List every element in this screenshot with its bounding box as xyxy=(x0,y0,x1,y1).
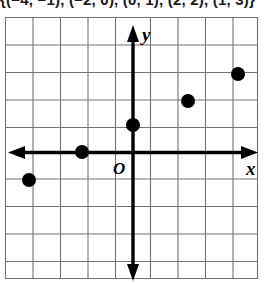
data-point xyxy=(75,145,89,159)
data-point xyxy=(181,94,195,108)
coordinate-plane-figure: y x O xyxy=(0,13,264,283)
y-axis-label: y xyxy=(140,24,151,45)
data-point xyxy=(231,67,245,81)
coordinate-plane-svg: y x O xyxy=(0,13,264,283)
data-point xyxy=(22,173,36,187)
x-axis-label: x xyxy=(245,158,256,179)
point-set-caption: {(−4, −1), (−2, 0), (0, 1), (2, 2), (1, … xyxy=(0,0,264,13)
origin-label: O xyxy=(113,159,125,178)
data-point xyxy=(126,118,140,132)
